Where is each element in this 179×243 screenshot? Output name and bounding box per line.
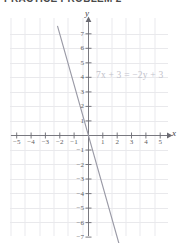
page-title-text: PRACTICE PROBLEM 2 <box>4 0 179 5</box>
x-tick-label: −4 <box>27 138 34 146</box>
x-tick-label: 1 <box>101 138 105 146</box>
y-axis-label: y <box>85 8 89 18</box>
page-title: PRACTICE PROBLEM 2 <box>4 0 179 5</box>
x-tick-label: −1 <box>70 138 77 146</box>
x-tick-label: −3 <box>42 138 49 146</box>
x-tick-label: 4 <box>144 138 148 146</box>
y-tick-label: 1 <box>81 117 85 125</box>
y-tick-label: −5 <box>77 204 84 212</box>
x-tick-label: −2 <box>56 138 63 146</box>
y-tick-label: −4 <box>77 190 84 198</box>
y-tick-label: 3 <box>81 88 85 96</box>
y-tick-label: −7 <box>77 233 84 241</box>
coordinate-plane-figure: −5 −4 −3 −2 −1 1 2 3 4 5 7 6 5 4 3 2 1 −… <box>0 10 179 243</box>
y-tick-label: −3 <box>77 175 84 183</box>
y-tick-label: −2 <box>77 161 84 169</box>
y-tick-label: −1 <box>77 146 84 154</box>
y-tick-label: 5 <box>81 59 85 67</box>
y-tick-label: 7 <box>81 30 85 38</box>
x-tick-label: −5 <box>13 138 20 146</box>
y-tick-label: −6 <box>77 219 84 227</box>
x-tick-label: 2 <box>115 138 119 146</box>
equation-annotation: 7x + 3 = −2y + 3 <box>96 70 163 80</box>
x-tick-label: 3 <box>130 138 134 146</box>
y-tick-label: 6 <box>81 44 85 52</box>
axes-and-line <box>0 10 179 243</box>
x-tick-label: 5 <box>158 138 162 146</box>
y-tick-label: 4 <box>81 73 85 81</box>
x-axis-label: x <box>172 128 176 138</box>
y-tick-label: 2 <box>81 102 85 110</box>
plotted-line <box>58 26 121 243</box>
